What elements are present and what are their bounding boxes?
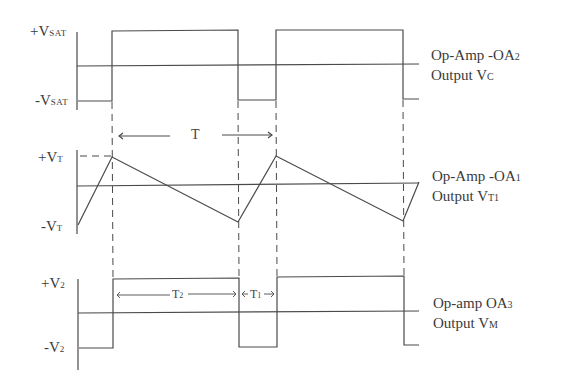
label-sub: 2 [60, 280, 65, 290]
label-minus-v2: -V2 [44, 340, 65, 355]
label-text: +V [30, 23, 49, 39]
label-text: +V [41, 275, 60, 291]
label-plus-vsat: +VSAT [30, 24, 67, 39]
oa1-description: Op-Amp -OA1 Output VT1 [432, 167, 521, 207]
output-sub: M [489, 319, 498, 330]
label-minus-vt: -VT [41, 219, 63, 234]
label-text: -V [44, 339, 60, 355]
t2-sub: 2 [179, 291, 183, 300]
label-sub: T [57, 154, 63, 164]
label-plus-v2: +V2 [41, 276, 65, 291]
title-text: Op-Amp -OA [431, 47, 515, 63]
output-text: Output V [432, 188, 488, 204]
label-text: -V [41, 218, 57, 234]
sync-dash-2 [238, 101, 239, 277]
t1-sub: 1 [257, 291, 261, 300]
output-sub: T1 [488, 192, 499, 203]
oa2-zero-line [77, 64, 419, 66]
t1-label: T1 [250, 287, 261, 302]
oa1-triangle-wave [78, 156, 419, 225]
output-sub: C [487, 71, 494, 82]
label-sub: SAT [51, 97, 69, 107]
sync-dash-4 [403, 100, 404, 275]
title-sub: 1 [516, 172, 521, 183]
oa1-output: Output VT1 [432, 187, 521, 207]
title-text: Op-amp OA [433, 295, 508, 311]
oa2-title: Op-Amp -OA2 [431, 46, 520, 66]
label-text: -V [35, 92, 51, 108]
label-minus-vsat: -VSAT [35, 93, 68, 108]
oa3-output: Output VM [433, 314, 513, 334]
oa3-title: Op-amp OA3 [433, 294, 513, 314]
oa2-description: Op-Amp -OA2 Output VC [431, 46, 520, 86]
output-text: Output V [431, 67, 487, 83]
title-text: Op-Amp -OA [432, 168, 516, 184]
output-text: Output V [433, 315, 489, 331]
label-sub: SAT [49, 28, 67, 38]
sync-dash-1 [112, 102, 113, 278]
period-text: T [191, 127, 200, 142]
oa2-output: Output VC [431, 66, 520, 86]
sync-dash-3 [276, 101, 277, 276]
label-sub: T [57, 223, 63, 233]
label-sub: 2 [60, 344, 65, 354]
title-sub: 3 [508, 299, 513, 310]
label-text: +V [38, 149, 57, 165]
oa3-description: Op-amp OA3 Output VM [433, 294, 513, 334]
t2-label: T2 [172, 287, 183, 302]
oa1-title: Op-Amp -OA1 [432, 167, 521, 187]
period-label: T [191, 127, 200, 143]
oa1-zero-line [77, 183, 419, 186]
title-sub: 2 [515, 51, 520, 62]
label-plus-vt: +VT [38, 150, 63, 165]
oa3-zero-line [78, 311, 419, 313]
